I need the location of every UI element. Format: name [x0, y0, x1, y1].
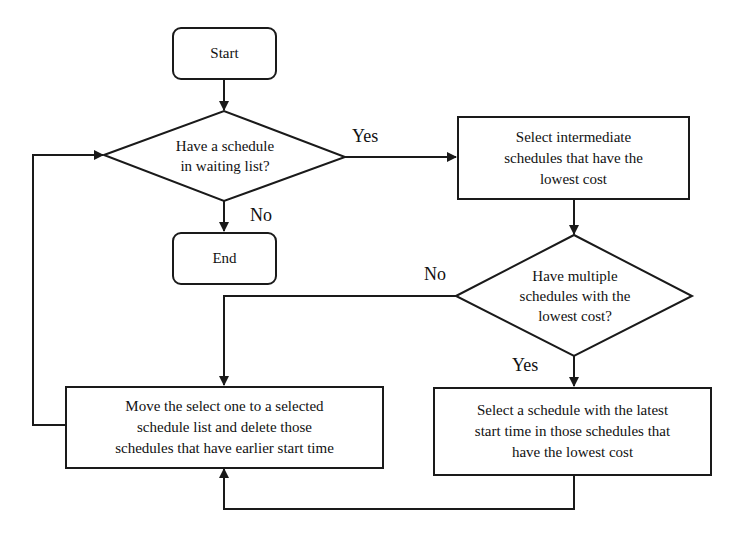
select-intermediate-line3: lowest cost — [540, 169, 607, 190]
decision-multiple-line1: Have multiple — [494, 266, 656, 286]
edge-label-multiple-yes: Yes — [512, 355, 538, 376]
select-latest-node: Select a schedule with the latest start … — [433, 387, 712, 476]
start-label: Start — [210, 43, 238, 64]
arrow-move-to-decision — [33, 155, 103, 425]
edge-label-waiting-no: No — [250, 205, 272, 226]
select-intermediate-line2: schedules that have the — [504, 148, 643, 169]
end-node: End — [172, 232, 277, 285]
select-intermediate-line1: Select intermediate — [516, 127, 631, 148]
arrow-decision2-no-to-move — [224, 296, 456, 385]
decision-multiple-line3: lowest cost? — [494, 306, 656, 326]
decision-multiple-line2: schedules with the — [494, 286, 656, 306]
select-latest-line1: Select a schedule with the latest — [477, 400, 668, 421]
select-intermediate-node: Select intermediate schedules that have … — [457, 116, 690, 200]
edge-label-waiting-yes: Yes — [352, 126, 378, 147]
move-selected-line3: schedules that have earlier start time — [115, 438, 334, 459]
start-node: Start — [172, 27, 277, 80]
move-selected-line1: Move the select one to a selected — [125, 396, 323, 417]
decision-waiting-line1: Have a schedule — [140, 136, 310, 156]
decision-waiting-line2: in waiting list? — [140, 156, 310, 176]
decision-waiting-text: Have a schedule in waiting list? — [140, 136, 310, 176]
decision-multiple-text: Have multiple schedules with the lowest … — [494, 266, 656, 326]
edge-label-multiple-no: No — [424, 264, 446, 285]
move-selected-node: Move the select one to a selected schedu… — [65, 386, 384, 469]
select-latest-line3: have the lowest cost — [512, 442, 633, 463]
move-selected-line2: schedule list and delete those — [137, 417, 312, 438]
select-latest-line2: start time in those schedules that — [475, 421, 670, 442]
end-label: End — [212, 248, 236, 269]
